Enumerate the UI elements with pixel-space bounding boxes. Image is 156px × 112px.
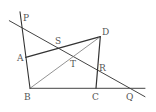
label-T: T bbox=[70, 59, 76, 69]
label-S: S bbox=[55, 36, 61, 46]
label-D: D bbox=[102, 27, 109, 37]
diagram-canvas: P A B C D S T R Q bbox=[0, 0, 156, 112]
label-R: R bbox=[99, 63, 106, 73]
label-Q: Q bbox=[126, 92, 133, 102]
label-A: A bbox=[16, 53, 24, 63]
segment-AD bbox=[26, 37, 101, 58]
label-P: P bbox=[23, 13, 29, 23]
label-C: C bbox=[92, 92, 99, 102]
line-PB bbox=[20, 12, 30, 89]
label-B: B bbox=[24, 92, 31, 102]
geometry-diagram: P A B C D S T R Q bbox=[0, 0, 156, 112]
segment-BD bbox=[30, 37, 100, 89]
segments-group bbox=[9, 12, 145, 97]
